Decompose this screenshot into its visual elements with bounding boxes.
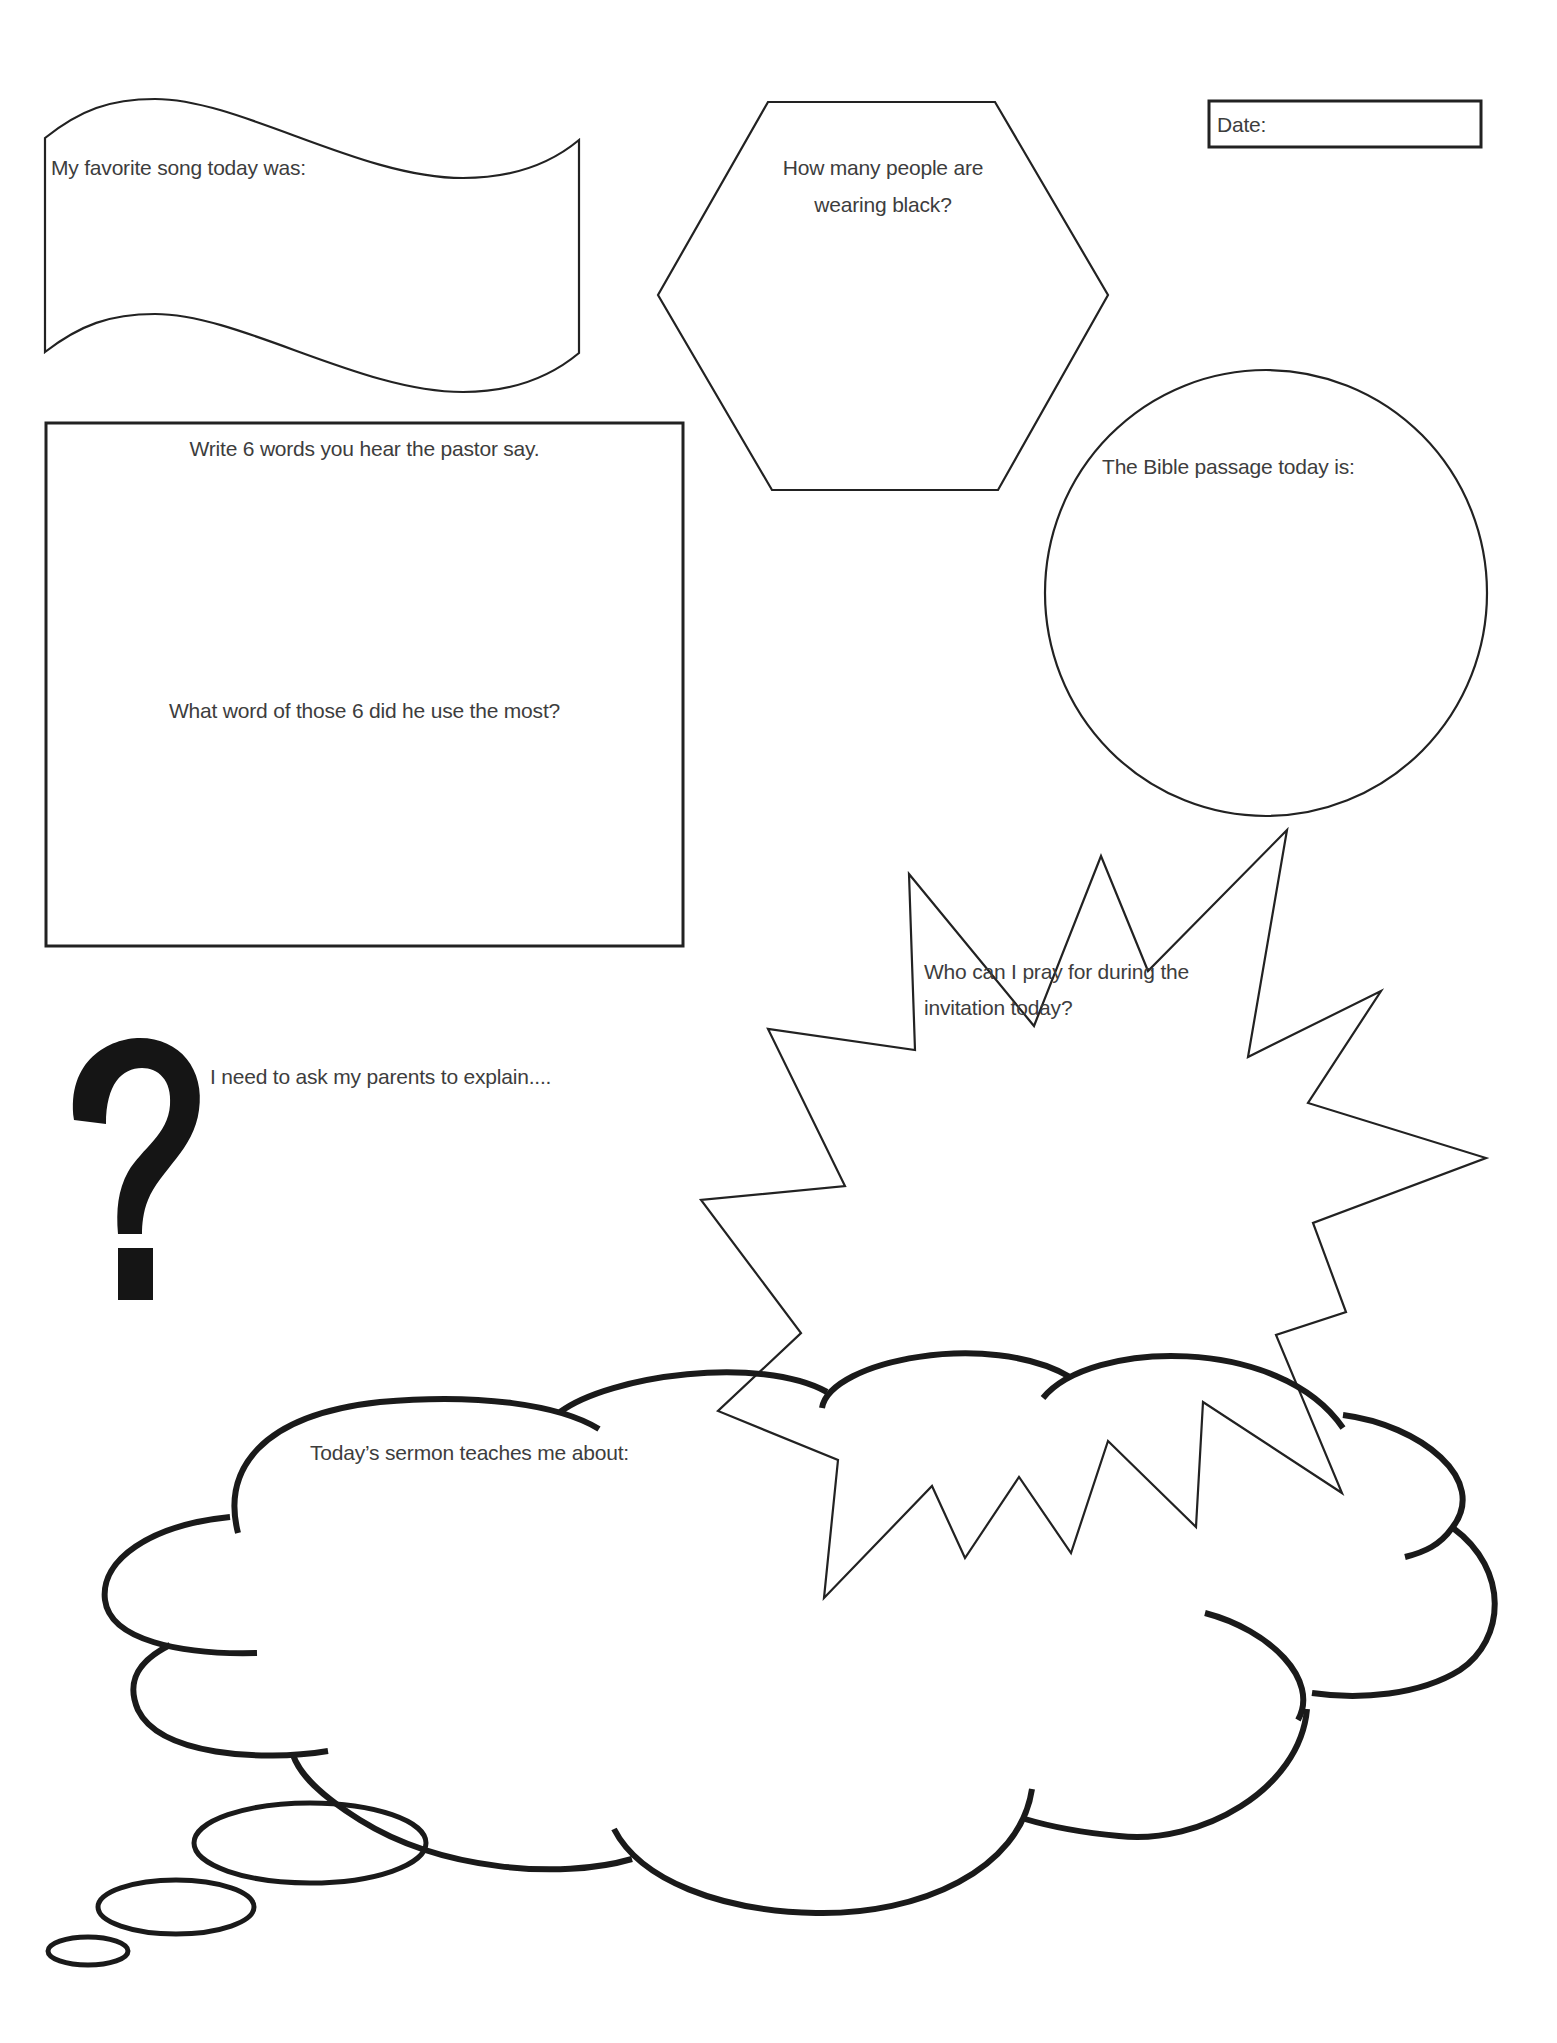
question-mark-icon <box>73 1038 200 1300</box>
pastor-most-used-prompt: What word of those 6 did he use the most… <box>46 693 683 729</box>
pastor-words-answer-area[interactable] <box>60 475 670 675</box>
people-in-black-prompt-line2: wearing black? <box>758 187 1008 223</box>
favorite-song-prompt: My favorite song today was: <box>51 150 306 186</box>
thought-bubble-small <box>48 1937 128 1965</box>
thought-bubble-large <box>194 1803 426 1883</box>
prayer-answer-area[interactable] <box>860 1040 1280 1420</box>
thought-bubble-medium <box>98 1880 254 1934</box>
pastor-words-prompt: Write 6 words you hear the pastor say. <box>46 431 683 467</box>
bible-passage-prompt: The Bible passage today is: <box>1102 449 1355 485</box>
prayer-prompt-line2: invitation today? <box>924 990 1072 1026</box>
date-label: Date: <box>1217 107 1266 143</box>
people-in-black-answer-area[interactable] <box>740 240 1030 460</box>
ask-parents-answer-area[interactable] <box>210 1100 680 1300</box>
ask-parents-prompt: I need to ask my parents to explain.... <box>210 1059 551 1095</box>
pastor-most-used-answer-area[interactable] <box>60 740 670 930</box>
sermon-answer-area[interactable] <box>300 1480 1300 1780</box>
prayer-prompt-line1: Who can I pray for during the <box>924 954 1189 990</box>
people-in-black-prompt-line1: How many people are <box>758 150 1008 186</box>
bible-passage-answer-area[interactable] <box>1080 500 1450 760</box>
date-input-area[interactable] <box>1280 104 1475 144</box>
sermon-prompt: Today’s sermon teaches me about: <box>310 1435 629 1471</box>
worksheet-page: Date: My favorite song today was: How ma… <box>0 0 1557 2043</box>
favorite-song-answer-area[interactable] <box>55 200 570 320</box>
